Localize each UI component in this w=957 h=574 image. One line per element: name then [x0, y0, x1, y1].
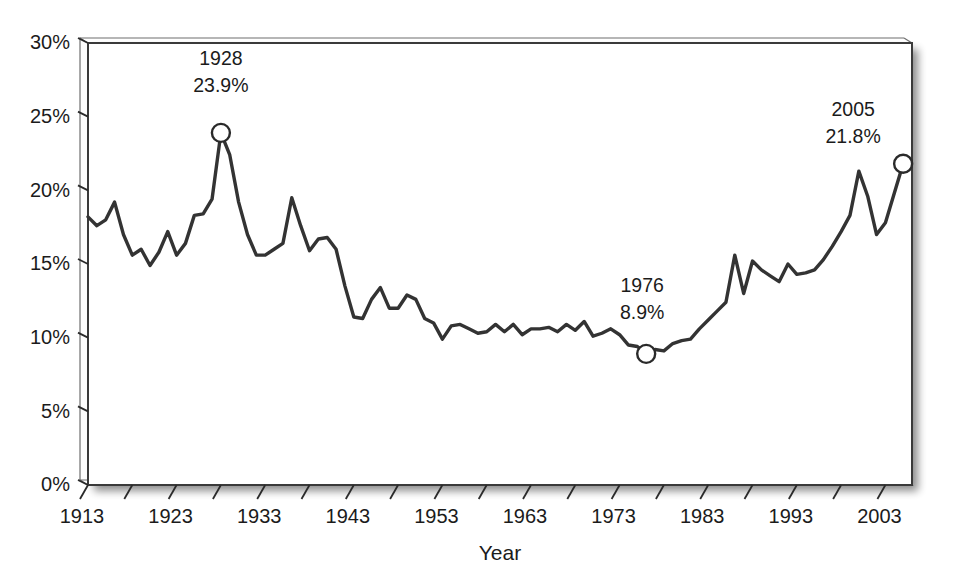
- x-tick-label: 1953: [414, 505, 459, 527]
- x-tick: [390, 485, 398, 499]
- y-tick-label: 0%: [41, 473, 70, 495]
- y-tick-label: 5%: [41, 400, 70, 422]
- x-tick: [434, 485, 442, 499]
- x-tick: [479, 485, 487, 499]
- x-tick-label: 1923: [148, 505, 193, 527]
- x-tick: [612, 485, 620, 499]
- x-tick: [80, 485, 88, 499]
- annotation-marker-peak-1928: [212, 124, 230, 142]
- x-tick-label: 1993: [769, 505, 814, 527]
- y-tick-label: 10%: [30, 326, 70, 348]
- annotation-year-peak-1928: 1928: [199, 47, 242, 69]
- annotation-value-trough-1976: 8.9%: [620, 301, 664, 323]
- annotation-marker-trough-1976: [637, 345, 655, 363]
- annotation-marker-end-2005: [894, 155, 912, 173]
- chart-container: 0%5%10%15%20%25%30% 19131923193319431953…: [0, 0, 957, 574]
- x-tick: [213, 485, 221, 499]
- x-tick-label: 1963: [503, 505, 548, 527]
- income-share-line-chart: 0%5%10%15%20%25%30% 19131923193319431953…: [0, 0, 957, 574]
- y-axis-tick-labels: 0%5%10%15%20%25%30%: [30, 31, 70, 495]
- x-tick: [833, 485, 841, 499]
- x-tick: [302, 485, 310, 499]
- x-tick: [124, 485, 132, 499]
- y-tick-label: 25%: [30, 105, 70, 127]
- x-tick: [656, 485, 664, 499]
- x-tick: [346, 485, 354, 499]
- x-tick: [700, 485, 708, 499]
- x-tick-label: 1973: [591, 505, 636, 527]
- x-tick-label: 1933: [237, 505, 282, 527]
- annotation-year-trough-1976: 1976: [620, 274, 663, 296]
- x-tick: [523, 485, 531, 499]
- x-tick: [877, 485, 885, 499]
- x-tick: [257, 485, 265, 499]
- x-tick-label: 1983: [680, 505, 725, 527]
- x-axis-tick-labels: 1913192319331943195319631973198319932003: [60, 505, 902, 527]
- x-tick-label: 2003: [857, 505, 902, 527]
- x-tick: [745, 485, 753, 499]
- x-tick: [169, 485, 177, 499]
- x-axis-title: Year: [479, 541, 521, 564]
- x-tick: [567, 485, 575, 499]
- annotation-value-end-2005: 21.8%: [825, 125, 880, 147]
- y-tick-label: 30%: [30, 31, 70, 53]
- x-axis-ticks: [80, 485, 885, 499]
- x-tick-label: 1943: [326, 505, 371, 527]
- annotation-year-end-2005: 2005: [831, 98, 875, 120]
- annotation-value-peak-1928: 23.9%: [193, 74, 248, 96]
- x-tick-label: 1913: [60, 505, 105, 527]
- y-tick-label: 15%: [30, 252, 70, 274]
- x-tick: [789, 485, 797, 499]
- y-tick-label: 20%: [30, 179, 70, 201]
